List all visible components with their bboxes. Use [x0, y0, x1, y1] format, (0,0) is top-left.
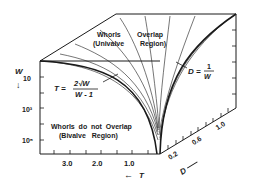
equation-d-numerator: 1 [207, 63, 211, 70]
equation-t-numerator: 2√W [73, 79, 90, 88]
equation-d-lhs: D = [188, 67, 201, 76]
top-label-overlap: Overlap [137, 31, 163, 39]
axis-w-tick-10-3: 10³ [22, 106, 33, 113]
bottom-label-line1: Whorls do not Overlap [51, 123, 132, 131]
axis-t-tick-1: 1.0 [124, 159, 134, 168]
equation-t-denominator: W - 1 [75, 90, 93, 99]
axis-t-label: T [139, 171, 145, 180]
axis-d-tick-0-6: 0.6 [191, 135, 203, 146]
axis-t-arrow-icon: ← [124, 170, 133, 180]
axis-d-label-group: D [178, 158, 200, 176]
axis-t-tick-2: 2.0 [92, 159, 102, 168]
equation-d-denominator: W [204, 73, 212, 80]
axis-w-arrow-icon: ↓ [16, 80, 21, 90]
equation-t-lhs: T = [54, 84, 66, 93]
axis-d-label: D [178, 166, 188, 177]
axis-d-tick-1-0: 1.0 [214, 120, 226, 131]
raup-coiling-parameter-diagram: Whorls Overlap (Univalve Region) Whorls … [0, 0, 255, 187]
axis-d-arrow-icon [187, 162, 197, 168]
top-label-region: Region) [140, 40, 166, 48]
top-label-univalve: (Univalve [93, 40, 124, 48]
axis-w-tick-10: 10 [23, 75, 31, 82]
bottom-label-line2: (Bivalve Region) [59, 132, 118, 140]
top-label-whorls: Whorls [97, 31, 121, 38]
axis-d-tick-0-2: 0.2 [167, 150, 179, 161]
axis-t-tick-3: 3.0 [62, 159, 72, 168]
axis-w-tick-10-5: 10⁵ [22, 137, 33, 144]
